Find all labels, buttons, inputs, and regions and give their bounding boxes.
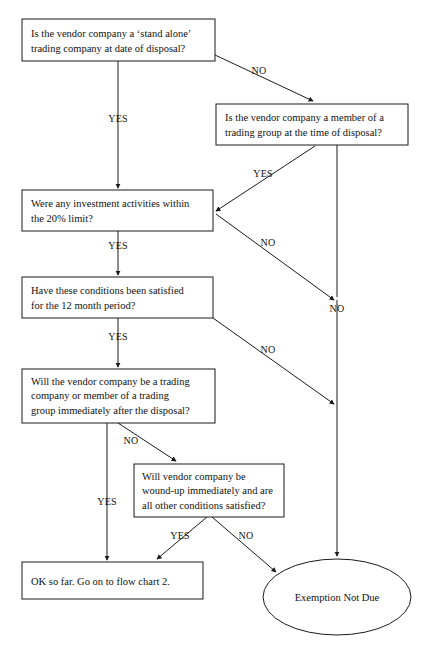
node-stand-alone-trading-company[interactable]: Is the vendor company a ‘stand alone’ tr… (22, 19, 215, 61)
node-n2-line1: Is the vendor company a member of a (225, 112, 384, 123)
edge-label-n5-n7-yes: YES (97, 496, 117, 507)
node-n5-line2: company or member of a trading (31, 390, 170, 401)
edge-n1-n2 (215, 55, 313, 101)
edge-label-n4-n5-yes: YES (108, 331, 128, 342)
flowchart-svg: Is the vendor company a ‘stand alone’ tr… (0, 0, 421, 647)
edge-n6-n8 (212, 517, 276, 572)
node-n5-line3: group immediately after the disposal? (31, 405, 190, 416)
node-trading-company-after-disposal[interactable]: Will the vendor company be a trading com… (22, 369, 215, 423)
node-layer: Is the vendor company a ‘stand alone’ tr… (22, 19, 411, 635)
node-wound-up-immediately[interactable]: Will vendor company be wound-up immediat… (134, 464, 284, 517)
edge-label-n5-n6-no: NO (124, 435, 139, 446)
node-n3-line2: the 20% limit? (31, 213, 93, 224)
node-n4-line1: Have these conditions been satisfied (31, 285, 185, 296)
node-n6-line3: all other conditions satisfied? (142, 500, 266, 511)
node-n3-line1: Were any investment activities within (31, 198, 190, 209)
node-n2-line2: trading group at the time of disposal? (225, 127, 382, 138)
edge-label-n4-rightspine-no: NO (261, 344, 276, 355)
node-n7-line1: OK so far. Go on to flow chart 2. (31, 576, 170, 587)
node-conditions-12-month-period[interactable]: Have these conditions been satisfied for… (22, 277, 213, 318)
node-ok-so-far-flow-chart-2[interactable]: OK so far. Go on to flow chart 2. (22, 562, 203, 599)
edge-n3-rightspine (216, 214, 334, 300)
edge-label-n1-n3-yes: YES (108, 113, 128, 124)
node-exemption-not-due[interactable]: Exemption Not Due (263, 559, 411, 635)
node-investment-activities-20-percent[interactable]: Were any investment activities within th… (22, 190, 213, 231)
node-n1-line1: Is the vendor company a ‘stand alone’ (31, 28, 191, 39)
node-n8-line1: Exemption Not Due (295, 592, 380, 603)
node-member-of-trading-group[interactable]: Is the vendor company a member of a trad… (216, 104, 408, 145)
edge-label-n6-n8-no: NO (239, 530, 254, 541)
edge-n4-rightspine (213, 318, 334, 404)
node-n6-line1: Will vendor company be (142, 471, 246, 482)
node-n4-line2: for the 12 month period? (31, 300, 136, 311)
edge-label-rightspine-no: NO (330, 303, 345, 314)
edge-label-n6-n7-yes: YES (170, 530, 190, 541)
edge-label-n2-n3-yes: YES (253, 168, 273, 179)
node-n5-line1: Will the vendor company be a trading (31, 376, 191, 387)
edge-label-n1-n2-no: NO (252, 65, 267, 76)
edge-label-n3-n4-yes: YES (108, 240, 128, 251)
edge-label-n3-rightspine-no: NO (261, 237, 276, 248)
node-n6-line2: wound-up immediately and are (142, 485, 273, 496)
node-n1-line2: trading company at date of disposal? (31, 43, 186, 54)
flowchart-canvas: Is the vendor company a ‘stand alone’ tr… (0, 0, 421, 647)
